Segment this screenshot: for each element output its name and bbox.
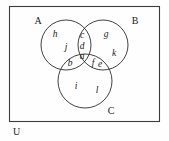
- set-label-b: B: [132, 15, 139, 26]
- set-label-c: C: [108, 105, 115, 116]
- region-label-d: d: [80, 41, 85, 51]
- region-label-e: e: [98, 59, 102, 69]
- region-label-f: f: [92, 58, 96, 68]
- region-label-c: c: [80, 30, 85, 40]
- set-label-a: A: [34, 15, 42, 26]
- region-label-h: h: [53, 29, 58, 39]
- region-label-i: i: [75, 81, 78, 91]
- region-label-g: g: [104, 29, 109, 39]
- set-b-circle: [78, 20, 128, 70]
- region-label-l: l: [96, 85, 99, 95]
- venn-diagram-figure: A B C U a b c d e f g h i j k l: [0, 0, 169, 141]
- region-label-j: j: [63, 42, 68, 52]
- region-label-b: b: [68, 58, 73, 68]
- region-label-a: a: [80, 51, 85, 61]
- universe-label: U: [13, 126, 21, 137]
- region-label-k: k: [112, 48, 117, 58]
